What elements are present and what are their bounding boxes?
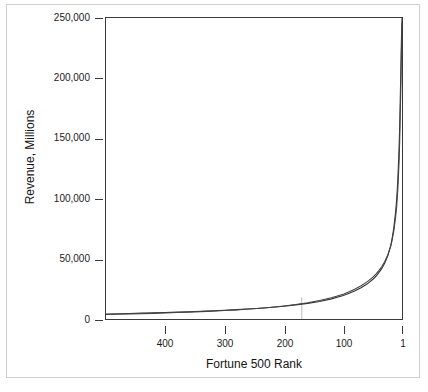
x-tick-label-200: 200 xyxy=(277,338,294,349)
y-tick-label-100000: 100,000 xyxy=(54,194,90,204)
chart-figure: 250,000 200,000 150,000 100,000 50,000 0… xyxy=(0,0,428,392)
y-tick-label-0: 0 xyxy=(84,315,90,325)
bottom-caption-fragment xyxy=(10,382,420,392)
plot-area xyxy=(105,17,403,320)
x-tick-mark-100 xyxy=(344,326,345,334)
x-tick-mark-400 xyxy=(165,326,166,334)
y-tick-mark-150000 xyxy=(95,139,103,140)
x-axis-title: Fortune 500 Rank xyxy=(105,357,403,371)
y-tick-mark-0 xyxy=(95,320,103,321)
x-tick-label-100: 100 xyxy=(336,338,353,349)
x-tick-mark-200 xyxy=(285,326,286,334)
y-tick-mark-250000 xyxy=(95,18,103,19)
revenue-curve-series-2 xyxy=(106,23,402,315)
x-tick-mark-300 xyxy=(225,326,226,334)
y-tick-label-50000: 50,000 xyxy=(59,254,90,264)
x-tick-mark-1 xyxy=(402,326,403,334)
y-tick-mark-200000 xyxy=(95,78,103,79)
revenue-curve-series-1 xyxy=(106,18,402,314)
x-tick-label-400: 400 xyxy=(157,338,174,349)
y-axis-title: Revenue, Millions xyxy=(23,67,37,247)
plot-curves xyxy=(106,18,402,319)
x-tick-label-1: 1 xyxy=(400,338,406,349)
y-axis-tick-labels: 250,000 200,000 150,000 100,000 50,000 0 xyxy=(28,0,90,392)
x-tick-label-300: 300 xyxy=(217,338,234,349)
y-tick-mark-50000 xyxy=(95,260,103,261)
y-tick-label-250000: 250,000 xyxy=(54,13,90,23)
y-tick-label-150000: 150,000 xyxy=(54,133,90,143)
y-tick-label-200000: 200,000 xyxy=(54,73,90,83)
y-tick-mark-100000 xyxy=(95,199,103,200)
